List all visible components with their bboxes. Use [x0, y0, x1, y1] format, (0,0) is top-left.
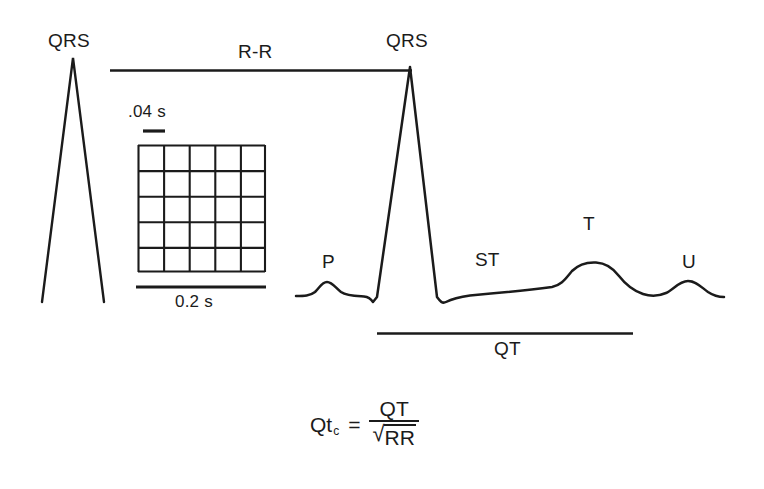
formula-radicand: RR — [384, 424, 416, 450]
label-qrs-right: QRS — [386, 31, 428, 50]
formula-fraction: QT √RR — [369, 398, 418, 450]
formula-denominator: √RR — [369, 422, 418, 450]
label-st-segment: ST — [475, 250, 500, 269]
label-rr-interval: R-R — [238, 42, 272, 61]
label-qt-interval: QT — [494, 339, 521, 358]
formula-numerator: QT — [369, 398, 418, 420]
qtc-formula: Qtc = QT √RR — [310, 398, 419, 450]
formula-lhs-subscript: c — [333, 425, 339, 437]
label-small-box-duration: .04 s — [128, 103, 166, 120]
formula-left-hand-side: Qtc — [310, 414, 338, 435]
label-qrs-left: QRS — [48, 31, 90, 50]
label-large-box-duration: 0.2 s — [175, 293, 213, 310]
calibration-grid — [138, 145, 265, 272]
left-qrs-complex-path — [42, 58, 104, 302]
label-p-wave: P — [322, 252, 335, 271]
radical-sign-icon: √ — [372, 423, 384, 445]
ecg-trace-path — [296, 67, 724, 303]
formula-equals-sign: = — [348, 414, 360, 435]
ecg-diagram-page: QRS R-R .04 s 0.2 s P QRS ST T U QT Qtc … — [0, 0, 764, 489]
label-u-wave: U — [682, 252, 696, 271]
formula-lhs-text: Qt — [310, 414, 332, 435]
label-t-wave: T — [583, 214, 595, 233]
